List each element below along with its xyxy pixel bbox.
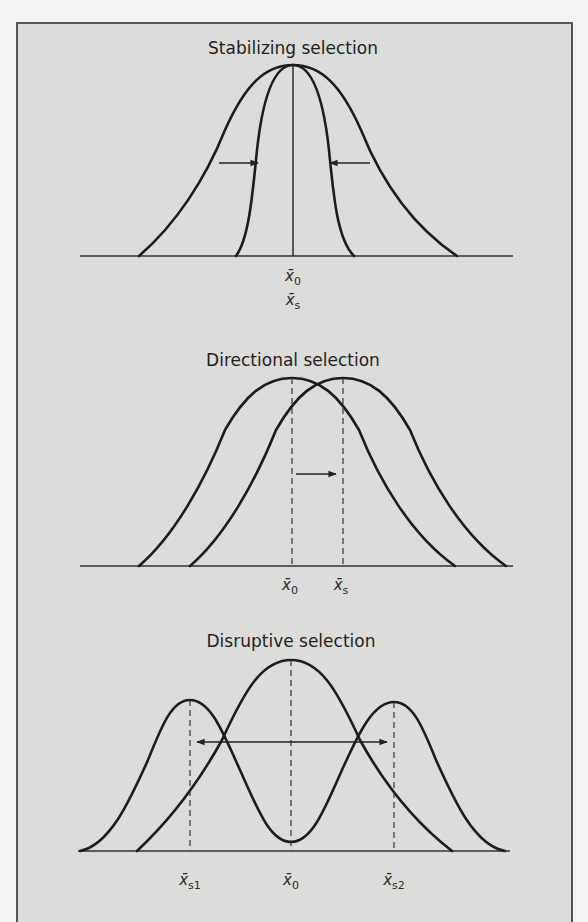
curve-original-wide [139,65,457,256]
panel-title: Stabilizing selection [208,38,378,58]
panel-title: Disruptive selection [207,631,376,651]
panel-title: Directional selection [206,350,380,370]
panel-stabilizing: Stabilizing selection x̄0 x̄s [80,38,513,312]
label-xs: x̄s [285,291,301,312]
curve-original-unimodal [137,660,452,851]
curve-original [139,378,455,566]
label-x0: x̄0 [282,871,299,892]
label-x0: x̄0 [284,267,301,288]
curve-selected-shifted [190,378,506,566]
curve-selected-narrow [236,65,354,256]
label-xs1: x̄s1 [178,871,201,892]
label-xs: x̄s [333,576,349,597]
label-x0: x̄0 [281,576,298,597]
panel-directional: Directional selection x̄0 x̄s [80,350,513,597]
panel-disruptive: Disruptive selection x̄s1 x̄0 x̄s2 [78,631,510,892]
label-xs2: x̄s2 [382,871,405,892]
curve-selected-bimodal [80,700,505,851]
